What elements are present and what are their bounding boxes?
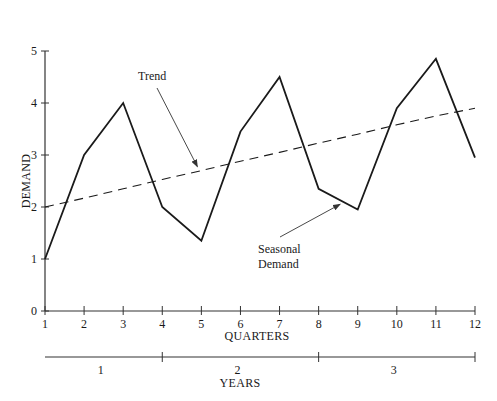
y-axis-label: DEMAND: [19, 154, 33, 208]
demand-chart: 012345 123456789101112 123 Trend Seasona…: [0, 0, 497, 401]
y-tick-label: 5: [31, 44, 37, 58]
series-seasonal-demand: [45, 59, 475, 259]
years-axis-label: YEARS: [220, 376, 261, 390]
axes: [45, 51, 475, 357]
y-ticks: 012345: [31, 44, 49, 318]
x-tick-label: 9: [355, 317, 361, 331]
year-label: 1: [98, 363, 104, 377]
seasonal-annotation-label-line1: Seasonal: [258, 242, 301, 256]
x-tick-label: 1: [42, 317, 48, 331]
y-tick-label: 0: [31, 304, 37, 318]
trend-annotation-label: Trend: [138, 69, 166, 83]
trend-arrow: [157, 88, 197, 167]
seasonal-annotation-label-line2: Demand: [258, 257, 299, 271]
x-tick-label: 4: [159, 317, 165, 331]
x-tick-label: 8: [316, 317, 322, 331]
y-tick-label: 1: [31, 252, 37, 266]
seasonal-demand-arrow: [280, 204, 340, 237]
x-axis-label: QUARTERS: [224, 329, 289, 343]
year-label: 2: [234, 363, 240, 377]
year-ticks: 123: [98, 352, 475, 377]
x-tick-label: 3: [120, 317, 126, 331]
year-label: 3: [391, 363, 397, 377]
series-trend: [45, 108, 475, 207]
y-tick-label: 4: [31, 96, 37, 110]
x-tick-label: 5: [198, 317, 204, 331]
x-tick-label: 12: [469, 317, 481, 331]
annotations: Trend Seasonal Demand: [138, 69, 340, 271]
series-group: [45, 59, 475, 259]
x-tick-label: 11: [430, 317, 442, 331]
x-tick-label: 2: [81, 317, 87, 331]
x-ticks: 123456789101112: [42, 306, 481, 331]
x-tick-label: 10: [391, 317, 403, 331]
